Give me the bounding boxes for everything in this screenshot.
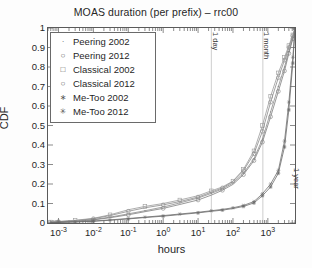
- x-axis-tick: 10-1: [120, 226, 137, 238]
- annotation-1-day: 1 day: [211, 32, 219, 50]
- x-axis-tick: 102: [226, 226, 240, 238]
- legend-item-me-too-2002[interactable]: ∗Me-Too 2002: [53, 91, 153, 105]
- x-axis-label: hours: [47, 243, 296, 255]
- x-axis-tick: 10-3: [50, 226, 67, 238]
- x-axis-tick: 100: [156, 226, 170, 238]
- y-axis-tick: 1: [40, 23, 45, 33]
- y-axis-tick: 0.3: [32, 160, 45, 170]
- circle-marker-icon: ○: [53, 52, 73, 60]
- square-marker-icon: □: [53, 66, 73, 74]
- x-axis-tick: 10-2: [85, 226, 102, 238]
- annotation-1-month: 1 month: [263, 32, 271, 59]
- y-axis-tick: 0: [40, 218, 45, 228]
- legend-item-classical-2012[interactable]: ○Classical 2012: [53, 77, 153, 91]
- x-axis-tick: 103: [261, 226, 275, 238]
- y-axis-tick: 0.4: [32, 140, 45, 150]
- y-axis-tick: 0.1: [32, 199, 45, 209]
- asterisk-marker-icon: ∗: [53, 94, 73, 102]
- y-axis-tick: 0.7: [32, 82, 45, 92]
- y-axis-tick: 0.9: [32, 43, 45, 53]
- circle-open-marker-icon: ○: [53, 80, 73, 88]
- annotation-1-year: 1 year: [293, 168, 301, 189]
- legend-item-label: Me-Too 2002: [73, 93, 128, 103]
- y-axis-tick: 0.2: [32, 179, 45, 189]
- y-axis-label: CDF: [0, 107, 10, 130]
- legend-item-classical-2002[interactable]: □Classical 2002: [53, 63, 153, 77]
- legend-item-label: Peering 2002: [73, 37, 130, 47]
- legend-item-label: Me-Too 2012: [73, 107, 128, 117]
- chart-legend: ·Peering 2002○Peering 2012□Classical 200…: [50, 32, 156, 123]
- legend-item-me-too-2012[interactable]: ✳Me-Too 2012: [53, 105, 153, 119]
- legend-item-peering-2012[interactable]: ○Peering 2012: [53, 49, 153, 63]
- legend-item-label: Classical 2002: [73, 65, 135, 75]
- x-axis-tick: 101: [191, 226, 205, 238]
- dot-marker-icon: ·: [53, 38, 73, 46]
- legend-item-label: Classical 2012: [73, 79, 135, 89]
- y-axis-tick: 0.8: [32, 62, 45, 72]
- chart-title: MOAS duration (per prefix) – rrc00: [0, 6, 312, 18]
- star-marker-icon: ✳: [53, 108, 73, 116]
- chart-figure: MOAS duration (per prefix) – rrc00 CDF h…: [0, 0, 312, 268]
- legend-item-label: Peering 2012: [73, 51, 130, 61]
- legend-item-peering-2002[interactable]: ·Peering 2002: [53, 35, 153, 49]
- y-axis-tick: 0.5: [32, 121, 45, 131]
- y-axis-tick: 0.6: [32, 101, 45, 111]
